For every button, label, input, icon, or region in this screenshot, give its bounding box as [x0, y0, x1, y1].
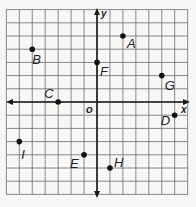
point-dot	[172, 112, 178, 118]
point-dot	[159, 73, 165, 79]
point-dot	[120, 33, 126, 39]
point-label: I	[21, 147, 25, 162]
point-label: D	[161, 113, 170, 128]
y-axis-up-arrow-icon	[94, 8, 100, 15]
y-axis-label: y	[100, 8, 107, 19]
origin-label: o	[86, 103, 93, 115]
axes: x y o	[6, 8, 190, 198]
point-label: H	[114, 155, 124, 170]
point-i: I	[17, 139, 26, 162]
point-dot	[55, 99, 61, 105]
point-dot	[17, 139, 23, 145]
coordinate-grid: x y o ABCDEFGHI	[0, 0, 196, 207]
point-label: A	[126, 36, 136, 51]
point-dot	[81, 152, 87, 158]
point-dot	[107, 165, 113, 171]
point-dot	[94, 60, 100, 66]
point-label: E	[70, 156, 79, 171]
point-label: F	[100, 64, 109, 79]
point-dot	[29, 46, 35, 52]
x-axis-left-arrow-icon	[6, 99, 13, 105]
point-label: G	[165, 78, 175, 93]
point-label: B	[32, 52, 41, 67]
point-label: C	[44, 86, 54, 101]
point-a: A	[120, 33, 135, 51]
x-axis-label: x	[180, 104, 187, 115]
